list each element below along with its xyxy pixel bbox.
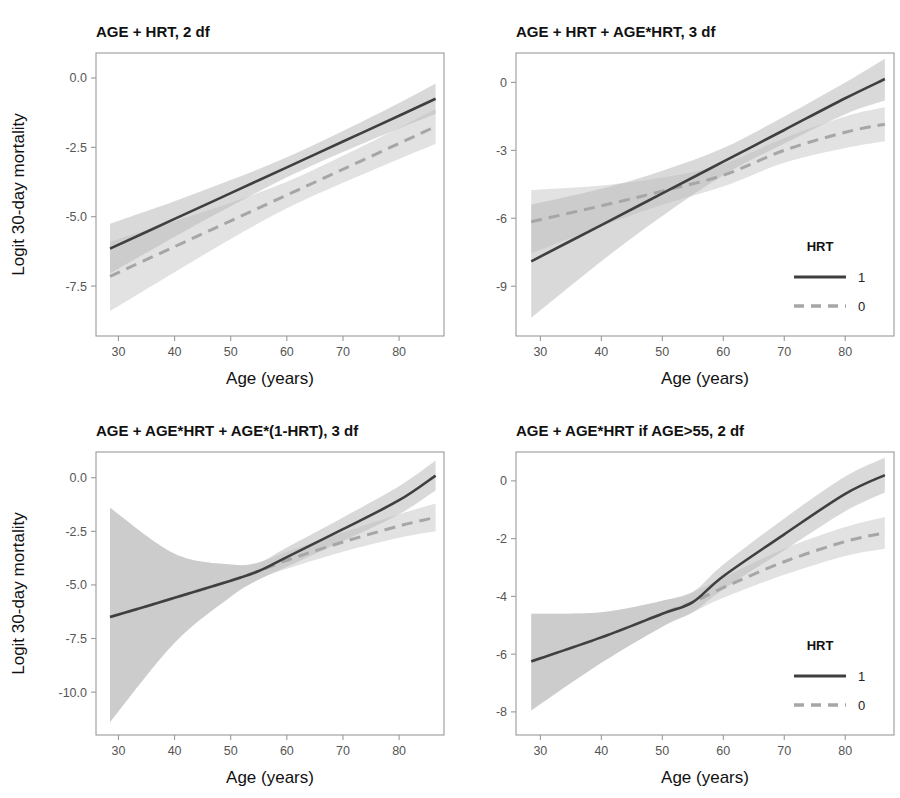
x-tick-label: 50 bbox=[655, 744, 669, 758]
legend-label-hrt-1: 1 bbox=[858, 270, 865, 285]
x-tick-label: 40 bbox=[168, 744, 182, 758]
panel-title: AGE + AGE*HRT + AGE*(1-HRT), 3 df bbox=[96, 422, 359, 439]
y-tick-label: -8 bbox=[496, 705, 507, 719]
y-tick-label: -5.0 bbox=[65, 210, 87, 224]
x-tick-label: 50 bbox=[224, 744, 238, 758]
x-tick-label: 30 bbox=[111, 345, 125, 359]
x-axis: 304050607080 bbox=[111, 336, 406, 359]
x-tick-label: 50 bbox=[655, 345, 669, 359]
legend-label-hrt-0: 0 bbox=[858, 698, 865, 713]
chart-svg-bottom-left: 3040506070800.0-2.5-5.0-7.5-10.0AGE + AG… bbox=[0, 399, 450, 798]
y-tick-label: 0 bbox=[500, 474, 507, 488]
x-tick-label: 40 bbox=[594, 744, 608, 758]
y-axis: 0.0-2.5-5.0-7.5 bbox=[65, 71, 96, 293]
x-axis-title: Age (years) bbox=[661, 768, 749, 787]
chart-svg-top-right: 3040506070800-3-6-9AGE + HRT + AGE*HRT, … bbox=[450, 0, 900, 399]
y-tick-label: -10.0 bbox=[59, 686, 88, 700]
x-tick-label: 30 bbox=[111, 744, 125, 758]
x-axis-title: Age (years) bbox=[226, 369, 314, 388]
legend-label-hrt-1: 1 bbox=[858, 669, 865, 684]
x-tick-label: 80 bbox=[392, 744, 406, 758]
x-tick-label: 60 bbox=[716, 744, 730, 758]
y-tick-label: 0.0 bbox=[70, 471, 87, 485]
y-tick-label: 0 bbox=[500, 76, 507, 90]
panel-title: AGE + AGE*HRT if AGE>55, 2 df bbox=[516, 422, 745, 439]
legend-label-hrt-0: 0 bbox=[858, 299, 865, 314]
x-tick-label: 70 bbox=[336, 744, 350, 758]
y-axis: 0-3-6-9 bbox=[496, 76, 516, 294]
y-tick-label: -4 bbox=[496, 590, 507, 604]
chart-svg-top-left: 3040506070800.0-2.5-5.0-7.5AGE + HRT, 2 … bbox=[0, 0, 450, 399]
y-tick-label: -3 bbox=[496, 144, 507, 158]
chart-panel-bottom-right: 3040506070800-2-4-6-8AGE + AGE*HRT if AG… bbox=[450, 399, 900, 798]
y-tick-label: -6 bbox=[496, 648, 507, 662]
panel-title: AGE + HRT + AGE*HRT, 3 df bbox=[516, 23, 716, 40]
x-axis: 304050607080 bbox=[533, 336, 852, 359]
x-tick-label: 70 bbox=[777, 345, 791, 359]
x-tick-label: 60 bbox=[280, 345, 294, 359]
y-tick-label: -6 bbox=[496, 212, 507, 226]
x-tick-label: 70 bbox=[336, 345, 350, 359]
panel-title: AGE + HRT, 2 df bbox=[96, 23, 211, 40]
x-tick-label: 60 bbox=[280, 744, 294, 758]
x-axis-title: Age (years) bbox=[661, 369, 749, 388]
chart-panel-top-right: 3040506070800-3-6-9AGE + HRT + AGE*HRT, … bbox=[450, 0, 900, 399]
y-tick-label: -2.5 bbox=[65, 141, 87, 155]
x-axis: 304050607080 bbox=[533, 735, 852, 758]
x-tick-label: 50 bbox=[224, 345, 238, 359]
y-axis-title: Logit 30-day mortality bbox=[9, 512, 28, 675]
legend-title: HRT bbox=[807, 638, 834, 653]
x-axis-title: Age (years) bbox=[226, 768, 314, 787]
x-tick-label: 80 bbox=[838, 345, 852, 359]
x-tick-label: 60 bbox=[716, 345, 730, 359]
chart-panel-bottom-left: 3040506070800.0-2.5-5.0-7.5-10.0AGE + AG… bbox=[0, 399, 450, 798]
y-tick-label: 0.0 bbox=[70, 71, 87, 85]
y-axis: 0-2-4-6-8 bbox=[496, 474, 516, 719]
x-tick-label: 30 bbox=[533, 345, 547, 359]
y-tick-label: -7.5 bbox=[65, 280, 87, 294]
y-tick-label: -7.5 bbox=[65, 632, 87, 646]
figure-four-panel-logit-plots: 3040506070800.0-2.5-5.0-7.5AGE + HRT, 2 … bbox=[0, 0, 900, 798]
x-tick-label: 40 bbox=[594, 345, 608, 359]
x-tick-label: 80 bbox=[838, 744, 852, 758]
x-axis: 304050607080 bbox=[111, 735, 406, 758]
y-tick-label: -9 bbox=[496, 280, 507, 294]
chart-svg-bottom-right: 3040506070800-2-4-6-8AGE + AGE*HRT if AG… bbox=[450, 399, 900, 798]
y-tick-label: -2 bbox=[496, 532, 507, 546]
x-tick-label: 40 bbox=[168, 345, 182, 359]
y-axis-title: Logit 30-day mortality bbox=[9, 113, 28, 276]
y-axis: 0.0-2.5-5.0-7.5-10.0 bbox=[59, 471, 97, 699]
x-tick-label: 80 bbox=[392, 345, 406, 359]
x-tick-label: 70 bbox=[777, 744, 791, 758]
x-tick-label: 30 bbox=[533, 744, 547, 758]
y-tick-label: -2.5 bbox=[65, 525, 87, 539]
y-tick-label: -5.0 bbox=[65, 578, 87, 592]
legend-title: HRT bbox=[807, 239, 834, 254]
chart-panel-top-left: 3040506070800.0-2.5-5.0-7.5AGE + HRT, 2 … bbox=[0, 0, 450, 399]
